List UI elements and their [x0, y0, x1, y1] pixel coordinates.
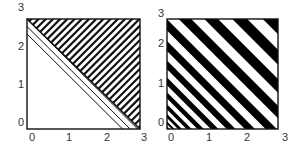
left-x-tick-2: 2 [104, 132, 110, 143]
left-y-tick-1: 1 [18, 79, 24, 90]
right-stripe-plot [149, 0, 297, 148]
right-y-tick-0: 0 [158, 117, 164, 128]
right-y-tick-3: 3 [158, 8, 164, 19]
left-y-tick-3: 3 [18, 2, 24, 13]
left-x-tick-0: 0 [29, 132, 35, 143]
right-x-tick-3: 3 [282, 132, 288, 143]
right-x-tick-0: 0 [168, 132, 174, 143]
right-panel: 3 2 1 0 0 1 2 3 [149, 0, 297, 148]
left-panel: 3 2 1 0 0 1 2 3 [0, 0, 148, 148]
right-y-tick-2: 2 [158, 38, 164, 49]
left-y-tick-2: 2 [18, 41, 24, 52]
left-x-tick-3: 3 [141, 132, 147, 143]
right-y-tick-1: 1 [158, 78, 164, 89]
right-x-tick-2: 2 [244, 132, 250, 143]
left-y-tick-0: 0 [18, 117, 24, 128]
left-x-tick-1: 1 [66, 132, 72, 143]
right-x-tick-1: 1 [206, 132, 212, 143]
